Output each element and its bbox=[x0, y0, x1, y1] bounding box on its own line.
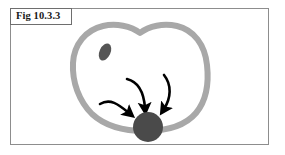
figure-root: Fig 10.3.3 bbox=[0, 0, 285, 155]
organelle-ellipse bbox=[96, 42, 114, 63]
dark-circular-body bbox=[133, 112, 163, 142]
arrow-right bbox=[164, 75, 170, 109]
figure-caption-box: Fig 10.3.3 bbox=[10, 8, 72, 25]
figure-caption-label: Fig 10.3.3 bbox=[16, 11, 60, 22]
arrow-left bbox=[100, 102, 129, 113]
arrow-middle bbox=[127, 79, 145, 108]
